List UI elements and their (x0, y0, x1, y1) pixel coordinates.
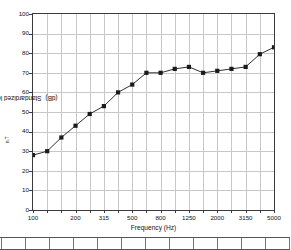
x-axis-tick-mark (231, 210, 232, 213)
x-axis-tick-mark (104, 210, 105, 213)
y-axis-title-subscript: n,T (5, 137, 10, 144)
strip-tick (145, 238, 146, 249)
data-point-marker (73, 124, 77, 128)
data-point-marker (102, 104, 106, 108)
y-axis-tick-mark (29, 190, 32, 191)
data-point-marker (116, 90, 120, 94)
strip-tick (217, 238, 218, 249)
x-axis-tick-mark (61, 210, 62, 213)
strip-tick (73, 238, 74, 249)
data-point-marker (144, 71, 148, 75)
plot-area (32, 13, 275, 211)
data-point-marker (158, 71, 162, 75)
y-axis-tick-mark (29, 53, 32, 54)
x-axis-tick-mark (246, 210, 247, 213)
data-point-marker (173, 67, 177, 71)
y-axis-tick-mark (29, 34, 32, 35)
strip-tick (1, 238, 2, 249)
data-point-marker (130, 82, 134, 86)
y-axis-tick-mark (29, 73, 32, 74)
y-axis-title-unit: (dB) (0, 96, 58, 103)
series-line (33, 47, 274, 155)
x-axis-tick-mark (47, 210, 48, 213)
y-axis-tick-mark (29, 171, 32, 172)
data-point-marker (33, 153, 35, 157)
x-axis-tick-mark (274, 210, 275, 213)
series-dnt (33, 14, 274, 210)
chart-figure: 0102030405060708090100 10020031550080012… (0, 0, 290, 232)
data-point-marker (229, 67, 233, 71)
x-axis-tick-mark (161, 210, 162, 213)
x-axis-tick-mark (203, 210, 204, 213)
x-axis-tick-mark (260, 210, 261, 213)
data-point-marker (45, 149, 49, 153)
x-axis-tick-mark (175, 210, 176, 213)
strip-tick (169, 238, 170, 249)
data-point-marker (187, 65, 191, 69)
data-point-marker (244, 65, 248, 69)
strip-tick (25, 238, 26, 249)
strip-tick (265, 238, 266, 249)
strip-tick (49, 238, 50, 249)
data-point-marker (88, 112, 92, 116)
y-axis-tick-mark (29, 92, 32, 93)
data-point-marker (201, 71, 205, 75)
x-axis-tick-label: 5000 (257, 214, 291, 221)
x-axis-title: Frequency (Hz) (32, 224, 275, 231)
data-point-marker (272, 45, 274, 49)
x-axis-tick-mark (217, 210, 218, 213)
strip-tick (193, 238, 194, 249)
data-point-marker (59, 135, 63, 139)
x-axis-tick-label: 100 (16, 214, 50, 221)
y-axis-tick-mark (29, 14, 32, 15)
y-axis-tick-mark (29, 112, 32, 113)
strip-tick (289, 238, 290, 249)
x-axis-tick-mark (118, 210, 119, 213)
y-axis-tick-mark (29, 132, 32, 133)
data-point-marker (258, 52, 262, 56)
x-axis-tick-mark (146, 210, 147, 213)
y-axis-tick-mark (29, 210, 32, 211)
x-axis-tick-mark (76, 210, 77, 213)
x-axis-tick-mark (132, 210, 133, 213)
y-axis-tick-mark (29, 151, 32, 152)
x-axis-tick-mark (189, 210, 190, 213)
strip-tick (121, 238, 122, 249)
data-layer (33, 14, 274, 210)
data-point-marker (215, 69, 219, 73)
strip-tick (241, 238, 242, 249)
x-axis-tick-mark (90, 210, 91, 213)
adjacent-figure-top-edge (0, 237, 290, 250)
x-axis-tick-mark (33, 210, 34, 213)
strip-tick (97, 238, 98, 249)
y-axis-title: Standardized level difference Dn,T (dB) (0, 0, 11, 198)
y-axis-tick-label: 0 (7, 207, 29, 213)
